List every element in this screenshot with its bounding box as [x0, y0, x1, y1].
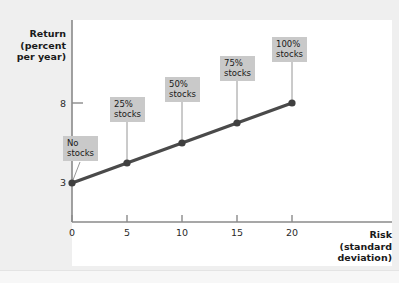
data-point-0: [68, 179, 75, 186]
x-axis-title-line1: Risk: [369, 229, 392, 240]
x-tick-label-15: 15: [227, 227, 247, 238]
leader-line-no-stocks: [73, 162, 80, 180]
y-axis-title-line2: (percent: [20, 40, 66, 51]
callout-50-stocks: 50% stocks: [165, 77, 200, 102]
data-point-15: [233, 119, 240, 126]
x-tick-label-20: 20: [282, 227, 302, 238]
x-tick-label-0: 0: [62, 227, 82, 238]
callout-no-stocks: No stocks: [63, 136, 98, 161]
x-axis-title: Risk(standarddeviation): [292, 229, 392, 264]
data-point-20: [288, 99, 295, 106]
callout-100-stocks: 100% stocks: [272, 37, 307, 62]
y-axis-title-line3: per year): [17, 51, 66, 62]
data-point-5: [123, 159, 130, 166]
y-axis-title: Return(percentper year): [2, 28, 66, 63]
x-axis-title-line2: (standard: [340, 241, 392, 252]
x-axis-title-line3: deviation): [337, 252, 392, 263]
y-axis-title-line1: Return: [29, 28, 66, 39]
y-tick-label-8: 8: [50, 98, 66, 109]
callout-25-stocks: 25% stocks: [110, 97, 145, 122]
data-point-10: [178, 139, 185, 146]
x-tick-label-10: 10: [172, 227, 192, 238]
y-tick-label-3: 3: [50, 177, 66, 188]
chart-screenshot: Return(percentper year) Risk(standarddev…: [0, 0, 399, 283]
callout-75-stocks: 75% stocks: [220, 56, 255, 81]
x-tick-label-5: 5: [117, 227, 137, 238]
